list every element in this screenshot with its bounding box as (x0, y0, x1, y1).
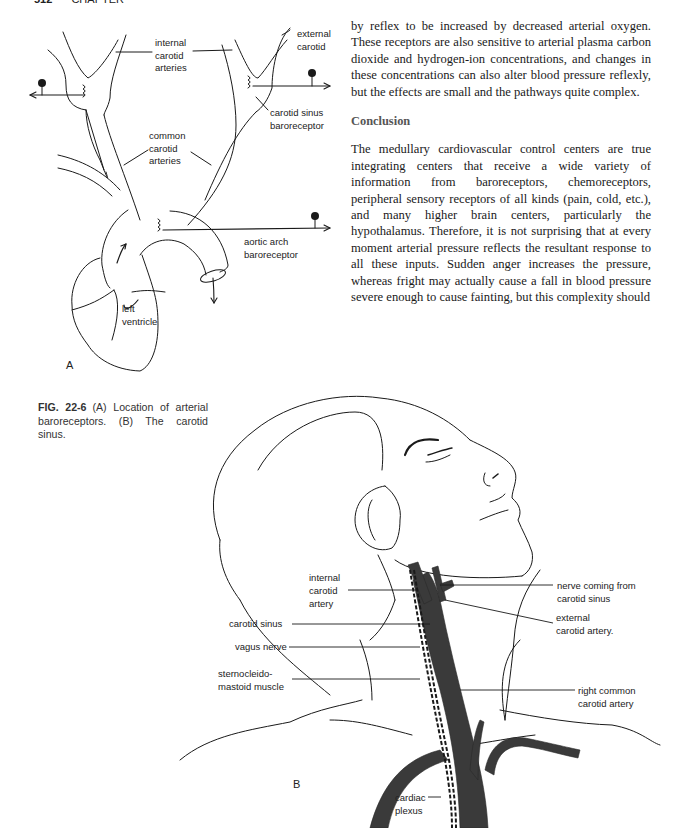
figure-caption: FIG. 22-6(A) Location of arterial barore… (38, 401, 208, 442)
artery-shading (370, 562, 580, 828)
label-external-carotid-artery: external carotid artery. (556, 611, 613, 637)
label-sternocleidomastoid-muscle: sternocleido- mastoid muscle (218, 667, 284, 693)
carotid-artery-tree-diagram (30, 28, 330, 371)
panel-letter-a: A (66, 359, 73, 371)
label-nerve-from-carotid-sinus: nerve coming from carotid sinus (557, 579, 636, 605)
body-paragraph-1: by reflex to be increased by decreased a… (351, 18, 651, 100)
label-vagus-nerve: vagus nerve (235, 640, 287, 653)
label-carotid-sinus: carotid sinus (229, 617, 282, 630)
label-common-carotid-arteries: common carotid arteries (149, 130, 185, 168)
label-internal-carotid-arteries: internal carotid arteries (155, 37, 187, 75)
section-heading-conclusion: Conclusion (351, 113, 651, 129)
panel-letter-b: B (293, 778, 300, 790)
label-external-carotid: external carotid (297, 28, 331, 53)
body-paragraph-2: The medullary cardiovascular control cen… (351, 141, 651, 305)
label-right-common-carotid-artery: right common carotid artery (578, 684, 636, 710)
label-left-ventricle: left ventricle (122, 303, 157, 328)
body-text-column: by reflex to be increased by decreased a… (351, 18, 651, 306)
figure-number: FIG. 22-6 (38, 401, 87, 413)
label-internal-carotid-artery: internal carotid artery (309, 571, 340, 610)
label-aortic-arch-baroreceptor: aortic arch baroreceptor (244, 236, 298, 261)
label-carotid-sinus-baroreceptor: carotid sinus baroreceptor (270, 107, 324, 132)
label-cardiac-plexus: cardiac plexus (395, 791, 426, 817)
